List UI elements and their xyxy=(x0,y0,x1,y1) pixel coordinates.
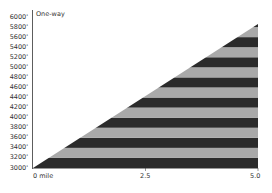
elevation-band xyxy=(33,98,259,108)
y-tick-label: 5800' xyxy=(10,24,28,31)
elevation-band xyxy=(33,77,259,87)
y-tick-label: 4800' xyxy=(10,74,28,81)
y-tick-label: 4200' xyxy=(10,104,28,111)
elevation-band xyxy=(33,158,259,168)
elevation-band xyxy=(33,67,259,77)
elevation-band xyxy=(33,17,259,27)
elevation-band xyxy=(33,27,259,37)
x-tick-label-mid: 2.5 xyxy=(140,172,150,180)
x-tick-label-end: 5.0 xyxy=(250,172,260,180)
y-tick-label: 5400' xyxy=(10,44,28,51)
x-tick-label-0: 0 mile xyxy=(33,172,53,180)
elevation-bands xyxy=(33,17,259,168)
y-tick-label: 3800' xyxy=(10,124,28,131)
y-tick-label: 3200' xyxy=(10,154,28,161)
y-tick-label: 6000' xyxy=(10,14,28,21)
elevation-plot xyxy=(0,0,272,193)
elevation-band xyxy=(33,87,259,97)
elevation-band xyxy=(33,37,259,47)
elevation-band xyxy=(33,108,259,118)
y-tick-label: 3000' xyxy=(10,165,28,172)
y-tick-label: 5200' xyxy=(10,54,28,61)
y-tick-label: 4000' xyxy=(10,114,28,121)
elevation-band xyxy=(33,118,259,128)
elevation-band xyxy=(33,148,259,158)
chart-title: One-way xyxy=(36,10,65,18)
elevation-band xyxy=(33,128,259,138)
y-tick-label: 3400' xyxy=(10,144,28,151)
elevation-band xyxy=(33,138,259,148)
y-tick-label: 3600' xyxy=(10,134,28,141)
y-tick-label: 5000' xyxy=(10,64,28,71)
y-tick-label: 5600' xyxy=(10,34,28,41)
elevation-band xyxy=(33,47,259,57)
y-tick-label: 4600' xyxy=(10,84,28,91)
elevation-band xyxy=(33,57,259,67)
y-tick-label: 4400' xyxy=(10,94,28,101)
